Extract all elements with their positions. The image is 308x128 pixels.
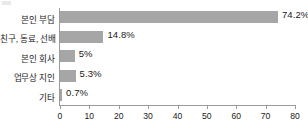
bar-row: 5.3%	[60, 67, 295, 87]
x-axis-tick-label: 40	[173, 111, 183, 121]
x-axis-tick-label: 20	[114, 111, 124, 121]
bar-row: 14.8%	[60, 28, 295, 48]
category-label: 친구, 동료, 선배	[0, 32, 55, 44]
x-axis-tick-label: 80	[290, 111, 300, 121]
bar-value-label: 5.3%	[80, 68, 102, 79]
x-axis-tick-mark	[60, 106, 61, 109]
x-axis-tick-mark	[148, 106, 149, 109]
bar	[60, 50, 75, 62]
x-axis-tick-label: 70	[261, 111, 271, 121]
x-axis-tick-mark	[119, 106, 120, 109]
x-axis-tick-label: 30	[143, 111, 153, 121]
bar-value-label: 5%	[79, 48, 93, 59]
bar-value-label: 14.8%	[107, 29, 134, 40]
x-axis-tick-label: 60	[231, 111, 241, 121]
x-axis-tick-mark	[266, 106, 267, 109]
x-axis-tick-label: 50	[202, 111, 212, 121]
category-label: 본인 회사	[0, 52, 55, 64]
x-axis-tick-label: 10	[85, 111, 95, 121]
x-axis-tick-mark	[178, 106, 179, 109]
bar	[60, 11, 278, 23]
bar	[60, 89, 62, 101]
x-axis-tick-mark	[207, 106, 208, 109]
category-label: 기타	[0, 91, 55, 103]
bar-row: 5%	[60, 47, 295, 67]
corner-artifact	[2, 1, 11, 5]
horizontal-bar-chart: 본인 부담친구, 동료, 선배본인 회사업무상 지인기타 74.2%14.8%5…	[0, 0, 308, 128]
x-axis-tick-mark	[295, 106, 296, 109]
bar	[60, 31, 103, 43]
x-axis-tick-mark	[236, 106, 237, 109]
category-label: 본인 부담	[0, 13, 55, 25]
bar-row: 74.2%	[60, 8, 295, 28]
bar-value-label: 74.2%	[282, 9, 308, 20]
plot-area: 74.2%14.8%5%5.3%0.7%	[60, 8, 295, 106]
category-label: 업무상 지인	[0, 71, 55, 83]
x-axis-tick-mark	[89, 106, 90, 109]
bar-row: 0.7%	[60, 86, 295, 106]
bar	[60, 70, 76, 82]
bar-value-label: 0.7%	[66, 87, 88, 98]
x-axis-tick-label: 0	[58, 111, 63, 121]
